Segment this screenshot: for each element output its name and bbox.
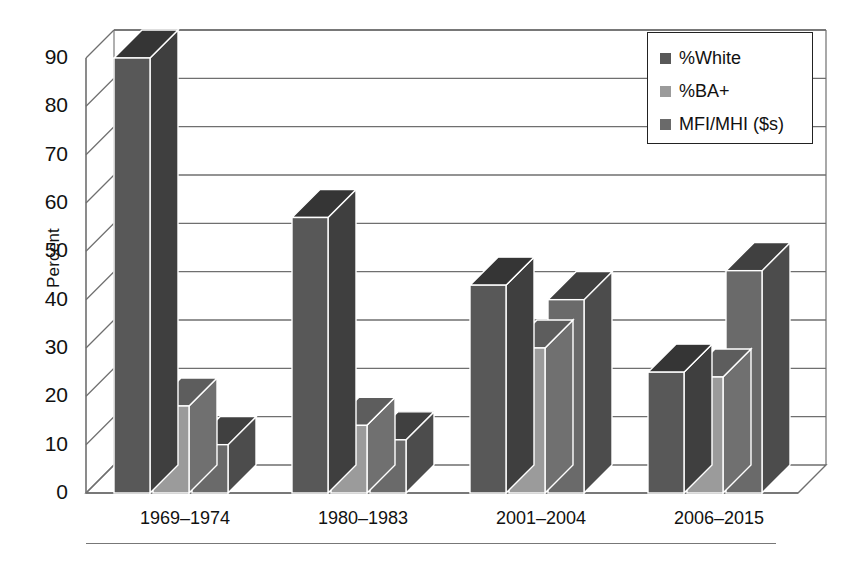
legend-swatch-icon xyxy=(660,119,671,130)
bar-group xyxy=(470,257,612,493)
legend-label: %BA+ xyxy=(679,81,730,102)
legend-swatch-icon xyxy=(660,86,671,97)
legend-item: MFI/MHI ($s) xyxy=(660,108,812,141)
bar xyxy=(292,190,356,494)
tick-connector xyxy=(86,78,114,106)
chart-figure: Percent 9080706050403020100 1969–1974198… xyxy=(0,0,852,565)
bar-front-face xyxy=(648,372,684,493)
bar-front-face xyxy=(292,218,328,494)
bar-front-face xyxy=(470,285,506,493)
legend: %White%BA+MFI/MHI ($s) xyxy=(647,32,813,144)
bar-group xyxy=(292,190,434,494)
bar-side-face xyxy=(328,190,356,494)
bar-side-face xyxy=(584,272,612,493)
tick-connector xyxy=(86,320,114,348)
bar xyxy=(470,257,534,493)
bar-front-face xyxy=(114,58,150,493)
legend-label: MFI/MHI ($s) xyxy=(679,114,784,135)
legend-item: %BA+ xyxy=(660,75,812,108)
legend-label: %White xyxy=(679,48,741,69)
tick-connector xyxy=(86,175,114,203)
legend-swatch-icon xyxy=(660,53,671,64)
tick-connector xyxy=(86,368,114,396)
tick-connector xyxy=(86,272,114,300)
tick-connector xyxy=(86,127,114,155)
bar-side-face xyxy=(545,320,573,493)
tick-connector xyxy=(86,417,114,445)
bar-group xyxy=(648,243,790,493)
bar-side-face xyxy=(762,243,790,493)
bar-group xyxy=(114,30,256,493)
tick-connector xyxy=(86,30,114,58)
tick-connector xyxy=(86,223,114,251)
bar xyxy=(648,344,712,493)
bar-side-face xyxy=(506,257,534,493)
footer-rule xyxy=(86,543,776,544)
bar xyxy=(114,30,178,493)
legend-item: %White xyxy=(660,42,812,75)
bar-side-face xyxy=(150,30,178,493)
